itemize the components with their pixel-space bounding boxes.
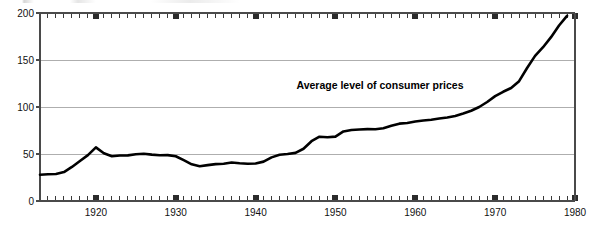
chart-background: [0, 0, 594, 228]
svg-text:200: 200: [17, 8, 34, 19]
series-annotation-label: Average level of consumer prices: [296, 79, 463, 91]
svg-text:1970: 1970: [484, 207, 507, 218]
svg-text:1980: 1980: [564, 207, 587, 218]
svg-text:1940: 1940: [244, 207, 267, 218]
svg-text:1960: 1960: [404, 207, 427, 218]
chart-figure: 1967 = 100 050100150200 1920193019401950…: [0, 0, 594, 228]
svg-text:1950: 1950: [324, 207, 347, 218]
svg-text:150: 150: [17, 55, 34, 66]
svg-text:0: 0: [28, 196, 34, 207]
svg-text:1920: 1920: [85, 207, 108, 218]
svg-text:100: 100: [17, 102, 34, 113]
consumer-price-index-line-chart: 050100150200 192019301940195019601970198…: [0, 0, 594, 228]
svg-text:50: 50: [23, 149, 35, 160]
svg-text:1930: 1930: [165, 207, 188, 218]
